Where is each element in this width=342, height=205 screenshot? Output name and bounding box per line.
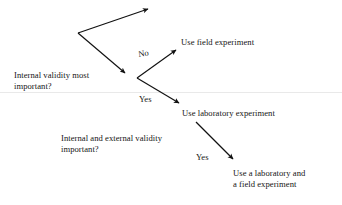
node-use-field-experiment: Use field experiment: [181, 37, 254, 48]
node-line-1: Internal validity most: [14, 70, 89, 81]
node-line-1: Use laboratory experiment: [182, 108, 275, 119]
node-line-1: Use a laboratory and: [233, 168, 305, 179]
node-use-laboratory-experiment: Use laboratory experiment: [182, 108, 275, 119]
arrow-up-top: [78, 9, 148, 33]
node-line-2: important?: [14, 81, 89, 92]
node-line-2: a field experiment: [233, 179, 305, 190]
branch-label-no: No: [137, 47, 149, 59]
branch-label-yes-laboratory: Yes: [139, 94, 152, 104]
node-internal-validity-question: Internal validity most important?: [14, 70, 89, 92]
node-internal-and-external-validity-question: Internal and external validity important…: [61, 133, 162, 155]
node-line-2: important?: [61, 144, 162, 155]
branch-label-yes-laboratory-and-field: Yes: [196, 152, 209, 162]
decision-tree-diagram: Internal validity most important? Use fi…: [0, 0, 342, 205]
node-line-1: Internal and external validity: [61, 133, 162, 144]
node-line-1: Use field experiment: [181, 37, 254, 48]
arrow-down-to-question-one: [78, 33, 125, 73]
node-use-laboratory-and-field-experiment: Use a laboratory and a field experiment: [233, 168, 305, 190]
